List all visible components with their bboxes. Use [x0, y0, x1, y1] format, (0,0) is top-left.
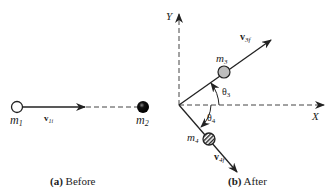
m3-particle: [218, 66, 230, 78]
theta3-label: θ3: [222, 86, 231, 99]
caption-after: (b) After: [228, 175, 267, 188]
v3f-label: v3f: [240, 31, 252, 44]
m1-particle: [12, 102, 23, 113]
m2-particle: [137, 101, 149, 113]
m4-particle: [203, 133, 215, 145]
panel-before: m1 v1i m2 (a) Before: [10, 101, 149, 188]
theta4-label: θ4: [207, 112, 216, 125]
m1-label: m1: [10, 113, 23, 128]
m3-label: m3: [216, 52, 228, 66]
x-axis-label: X: [311, 110, 320, 122]
caption-before: (a) Before: [50, 175, 96, 188]
m2-label: m2: [136, 113, 149, 128]
v1i-label: v1i: [44, 113, 54, 124]
m4-label: m4: [187, 131, 199, 145]
collision-diagram: m1 v1i m2 (a) Before Y X m3 v3f m4 v4f θ…: [0, 0, 336, 194]
theta3-arc: [211, 83, 219, 105]
panel-after: Y X m3 v3f m4 v4f θ3 θ4 (b) After: [166, 10, 324, 188]
y-axis-label: Y: [166, 10, 174, 22]
